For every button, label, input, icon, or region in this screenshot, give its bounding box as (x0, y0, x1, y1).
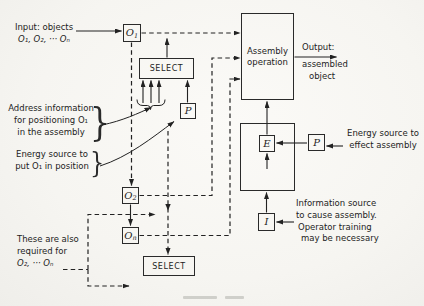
output-label-line2: assembled (302, 59, 348, 71)
e-box: E (259, 135, 275, 152)
input-label: Input: objects O₁, O₂, ··· Oₙ (12, 22, 76, 46)
p-top-box: P (180, 103, 196, 119)
under-brace (137, 100, 165, 110)
chain-mid-arrowhead (165, 204, 170, 211)
on-box: On (122, 227, 139, 244)
o1-box: O1 (123, 24, 141, 42)
also-required-lower-dashed (88, 270, 129, 287)
p-right-box: P (308, 134, 325, 151)
figure-caption-smudge (225, 296, 244, 299)
energy-brace: } (90, 150, 104, 176)
output-label-line3: object (309, 71, 335, 83)
assembly-operation-box: Assembly operation (241, 13, 294, 100)
figure-canvas: Input: objects O₁, O₂, ··· Oₙ Address in… (0, 0, 424, 306)
energy-left-label: Energy source to put O₁ in position (12, 149, 92, 173)
output-label-line1: Output: (302, 42, 334, 54)
i-box: I (258, 213, 275, 231)
select-top-box: SELECT (139, 58, 194, 79)
also-required-label: These are also required for O₂, ··· Oₙ (17, 234, 79, 269)
energy-right-label: Energy source to effect assembly (344, 128, 422, 152)
o2-box: O2 (122, 187, 139, 204)
figure-caption-smudge (183, 296, 217, 299)
info-right-label: Information source to cause assembly. Op… (296, 198, 379, 245)
select-bottom-box: SELECT (143, 256, 195, 276)
address-label: Address information for positioning O₁ i… (8, 103, 94, 138)
effector-box (240, 123, 295, 191)
address-brace: } (90, 103, 110, 140)
energy-curve-arrow (100, 122, 174, 167)
